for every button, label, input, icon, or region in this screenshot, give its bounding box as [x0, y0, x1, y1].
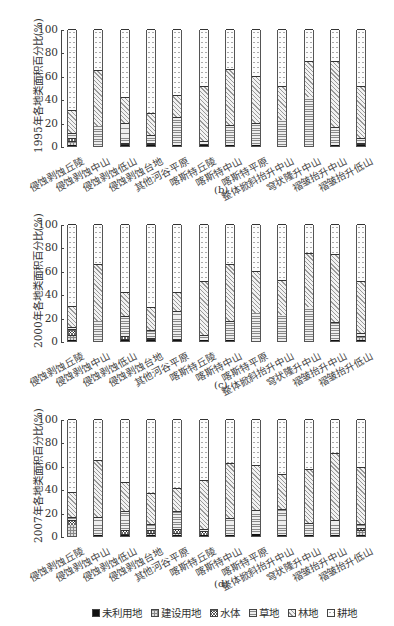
- stacked-bar: [93, 225, 103, 342]
- bar-segment-未利用地: [252, 534, 260, 536]
- stacked-bar: [356, 225, 366, 342]
- legend-label: 建设用地: [161, 605, 201, 620]
- bar-segment-耕地: [200, 29, 208, 86]
- bar-segment-未利用地: [331, 145, 339, 146]
- bar-segment-林地: [68, 492, 76, 518]
- y-tick-label: 100: [36, 218, 58, 230]
- bar-segment-林地: [331, 453, 339, 520]
- bar-segment-建设用地: [357, 144, 365, 145]
- forest-swatch-icon: [288, 609, 296, 617]
- bar-segment-林地: [173, 488, 181, 511]
- bar-segment-草地: [68, 517, 76, 519]
- y-axis-label: 2007年各地类面积百分比(%): [30, 408, 45, 543]
- bar-segment-建设用地: [68, 141, 76, 145]
- stacked-bar: [146, 420, 156, 537]
- bar-segment-未利用地: [147, 145, 155, 146]
- bar-segment-水体: [357, 528, 365, 530]
- stacked-bar: [330, 30, 340, 147]
- bar-segment-草地: [68, 133, 76, 138]
- bar-segment-草地: [305, 307, 313, 341]
- stacked-bar: [67, 30, 77, 147]
- bar-segment-耕地: [94, 419, 102, 460]
- bar-segment-林地: [94, 70, 102, 126]
- legend-label: 林地: [298, 605, 318, 620]
- bar-segment-草地: [357, 333, 365, 337]
- stacked-bar: [172, 225, 182, 342]
- bar-segment-林地: [305, 253, 313, 307]
- stacked-bar: [199, 420, 209, 537]
- bar-segment-水体: [68, 520, 76, 526]
- y-tick: [61, 443, 64, 444]
- stacked-bar: [225, 420, 235, 537]
- bar-segment-耕地: [68, 224, 76, 306]
- bar-segment-耕地: [305, 29, 313, 61]
- bar-segment-耕地: [305, 224, 313, 253]
- bar-segment-林地: [173, 292, 181, 311]
- bar-segment-草地: [200, 529, 208, 531]
- bar-segment-草地: [278, 315, 286, 341]
- bar-segment-林地: [357, 281, 365, 332]
- unused-swatch-icon: [92, 609, 100, 617]
- y-axis-label: 2000年各地类面积百分比(%): [30, 213, 45, 348]
- y-tick-label: 60: [36, 265, 58, 277]
- grass-swatch-icon: [249, 609, 257, 617]
- bar-segment-水体: [200, 531, 208, 535]
- bar-segment-未利用地: [68, 340, 76, 341]
- bar-segment-耕地: [173, 29, 181, 95]
- bar-segment-林地: [68, 110, 76, 133]
- bar-segment-建设用地: [147, 144, 155, 145]
- stacked-bar: [120, 420, 130, 537]
- legend-label: 未利用地: [102, 605, 142, 620]
- legend-item-grass: 草地: [249, 605, 279, 620]
- bar-segment-草地: [252, 313, 260, 341]
- stacked-bar: [146, 30, 156, 147]
- y-tick-label: 100: [36, 23, 58, 35]
- bar-segment-耕地: [226, 224, 234, 264]
- bar-segment-林地: [252, 76, 260, 123]
- bar-segment-林地: [278, 474, 286, 509]
- y-tick-label: 40: [36, 93, 58, 105]
- panel-caption: (d): [214, 578, 228, 589]
- bar-segment-草地: [331, 127, 339, 145]
- stacked-bar: [304, 420, 314, 537]
- bar-segment-未利用地: [121, 340, 129, 341]
- bar-segment-耕地: [121, 29, 129, 97]
- bar-segment-耕地: [173, 419, 181, 488]
- bar-segment-未利用地: [173, 145, 181, 146]
- y-tick: [61, 295, 64, 296]
- bar-segment-林地: [357, 86, 365, 137]
- bar-segment-建设用地: [121, 534, 129, 535]
- bar-segment-林地: [252, 271, 260, 313]
- stacked-bar: [93, 30, 103, 147]
- y-tick-label: 80: [36, 46, 58, 58]
- bar-segment-水体: [121, 530, 129, 534]
- legend-label: 草地: [259, 605, 279, 620]
- bar-segment-草地: [147, 524, 155, 530]
- stacked-bar: [199, 225, 209, 342]
- bar-segment-耕地: [357, 29, 365, 86]
- bar-segment-未利用地: [226, 535, 234, 536]
- bar-segment-水体: [357, 143, 365, 144]
- bar-segment-林地: [147, 493, 155, 525]
- y-axis-label: 1995年各地类面积百分比(%): [30, 18, 45, 153]
- y-tick: [61, 467, 64, 468]
- bar-segment-耕地: [94, 29, 102, 70]
- stacked-bar: [304, 30, 314, 147]
- stacked-bar: [251, 420, 261, 537]
- bar-segment-耕地: [68, 29, 76, 110]
- bar-segment-未利用地: [68, 145, 76, 146]
- bar-segment-林地: [331, 61, 339, 128]
- bar-segment-林地: [200, 86, 208, 141]
- bar-segment-草地: [121, 123, 129, 143]
- bar-segment-未利用地: [200, 535, 208, 536]
- stacked-bar: [330, 420, 340, 537]
- bar-segment-林地: [357, 467, 365, 524]
- bar-segment-林地: [94, 264, 102, 321]
- y-tick-label: 0: [36, 140, 58, 152]
- bar-segment-建设用地: [173, 533, 181, 535]
- bar-segment-未利用地: [331, 340, 339, 341]
- y-tick: [61, 53, 64, 54]
- stacked-bar: [251, 225, 261, 342]
- water-swatch-icon: [210, 609, 218, 617]
- bar-segment-耕地: [331, 29, 339, 61]
